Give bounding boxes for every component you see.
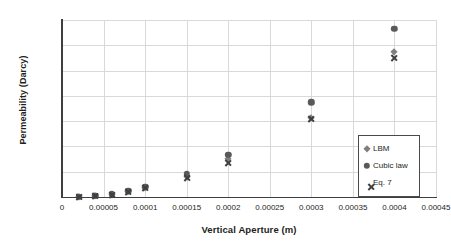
chart-legend: LBM Cubic law Eq. 7 <box>358 135 420 197</box>
gridline-vertical <box>311 20 312 197</box>
data-point-x <box>224 159 232 167</box>
circle-marker-icon <box>362 161 371 170</box>
data-point-x <box>307 115 315 123</box>
gridline-vertical <box>436 20 437 197</box>
data-point-x <box>141 184 149 192</box>
x-tick-label: 0.00035 <box>338 203 367 212</box>
x-tick-label: 0.0001 <box>133 203 157 212</box>
data-point-x <box>124 188 132 196</box>
x-tick-label: 0.0003 <box>299 203 323 212</box>
legend-label: Cubic law <box>373 161 408 170</box>
data-point-circle <box>308 99 314 105</box>
gridline-horizontal <box>62 71 436 72</box>
gridline-horizontal <box>62 121 436 122</box>
legend-item-cubic-law: Cubic law <box>362 157 417 174</box>
y-axis-line <box>61 19 63 198</box>
x-tick-label: 0.00045 <box>422 203 451 212</box>
gridline-vertical <box>104 20 105 197</box>
legend-item-eq7: Eq. 7 <box>362 174 417 191</box>
x-tick-label: 0.00015 <box>172 203 201 212</box>
x-marker-icon <box>362 178 371 187</box>
data-point-circle <box>391 26 397 32</box>
gridline-vertical <box>353 20 354 197</box>
data-point-x <box>183 174 191 182</box>
gridline-vertical <box>270 20 271 197</box>
x-axis-title: Vertical Aperture (m) <box>62 224 436 235</box>
legend-item-lbm: LBM <box>362 140 417 157</box>
diamond-marker-icon <box>362 144 371 153</box>
gridline-horizontal <box>62 20 436 21</box>
permeability-vs-aperture-chart: Permeability (Darcy) 0200040006000800010… <box>0 0 451 246</box>
x-tick-label: 0.0004 <box>382 203 406 212</box>
x-tick-label: 0.00005 <box>89 203 118 212</box>
x-tick-label: 0.0002 <box>216 203 240 212</box>
gridline-vertical <box>228 20 229 197</box>
legend-label: LBM <box>373 144 389 153</box>
x-tick-label: 0.00025 <box>255 203 284 212</box>
data-point-x <box>390 54 398 62</box>
gridline-horizontal <box>62 45 436 46</box>
y-axis-title: Permeability (Darcy) <box>18 15 28 185</box>
legend-label: Eq. 7 <box>373 178 392 187</box>
x-tick-label: 0 <box>60 203 64 212</box>
gridline-vertical <box>145 20 146 197</box>
gridline-horizontal <box>62 96 436 97</box>
